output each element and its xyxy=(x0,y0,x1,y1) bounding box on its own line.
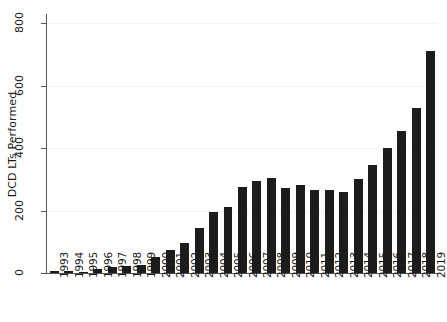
x-tick-label: 2019 xyxy=(435,252,447,278)
x-tick-label: 1999 xyxy=(145,252,157,278)
x-tick-label: 2001 xyxy=(174,252,186,278)
bar xyxy=(412,108,421,273)
bar xyxy=(426,51,435,273)
x-tick-label: 2009 xyxy=(290,252,302,278)
x-tick-label: 2005 xyxy=(232,252,244,278)
x-tick-label: 2004 xyxy=(218,252,230,278)
x-tick-label: 2012 xyxy=(333,252,345,278)
y-tick-label: 800 xyxy=(13,10,26,36)
x-tick-label: 2015 xyxy=(377,252,389,278)
y-tick-label: 0 xyxy=(13,260,26,286)
bars-container xyxy=(47,14,438,273)
x-tick-label: 2002 xyxy=(189,252,201,278)
x-tick-label: 2014 xyxy=(362,252,374,278)
x-tick-label: 2010 xyxy=(304,252,316,278)
x-tick-label: 2011 xyxy=(319,252,331,278)
y-tick-label: 600 xyxy=(13,73,26,99)
x-axis-ticks: 1993199419951996199719981999200020012002… xyxy=(47,276,438,322)
x-tick-label: 1993 xyxy=(58,252,70,278)
x-tick-label: 2007 xyxy=(261,252,273,278)
x-tick-label: 2017 xyxy=(406,252,418,278)
x-tick-label: 2003 xyxy=(203,252,215,278)
x-tick-label: 2008 xyxy=(275,252,287,278)
y-tick-label: 200 xyxy=(13,198,26,224)
x-tick-label: 1996 xyxy=(102,252,114,278)
x-tick-label: 2006 xyxy=(247,252,259,278)
x-tick-label: 1994 xyxy=(73,252,85,278)
y-tick-label: 400 xyxy=(13,135,26,161)
x-tick-label: 2000 xyxy=(160,252,172,278)
x-tick-label: 2018 xyxy=(420,252,432,278)
x-tick-label: 2016 xyxy=(391,252,403,278)
x-tick-label: 1998 xyxy=(131,252,143,278)
x-tick-label: 1997 xyxy=(116,252,128,278)
x-tick-label: 1995 xyxy=(87,252,99,278)
x-tick-label: 2013 xyxy=(348,252,360,278)
